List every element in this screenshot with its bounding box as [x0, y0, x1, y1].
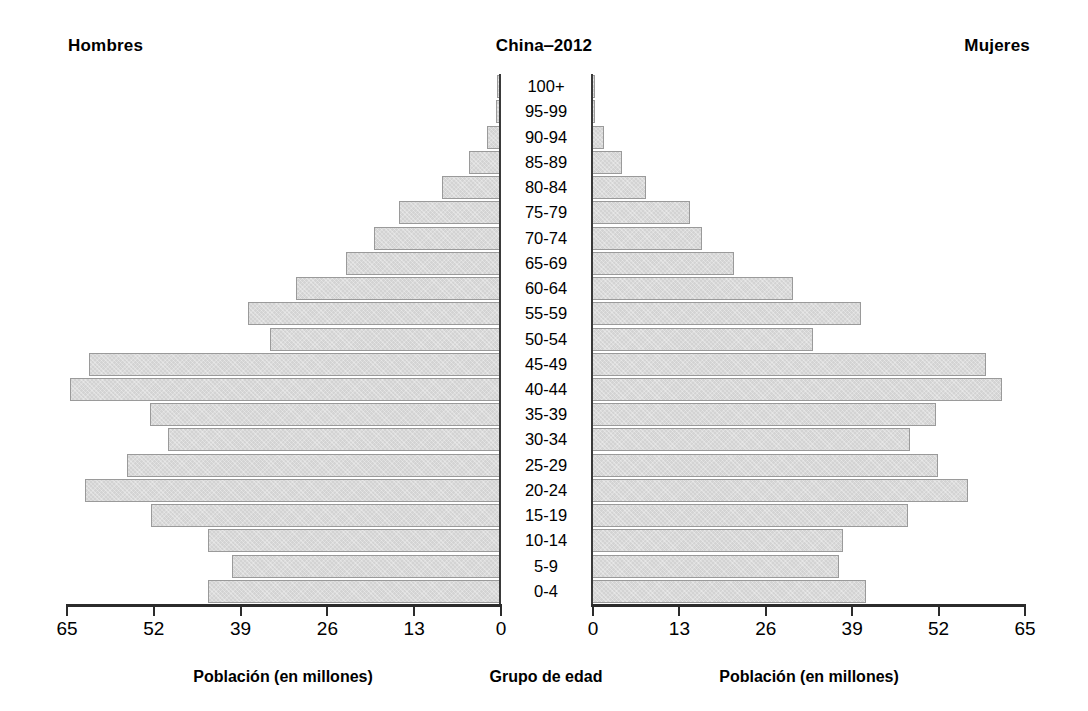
female-bar	[592, 479, 968, 502]
left-axis-tick-label: 65	[56, 618, 77, 640]
age-group-label: 35-39	[503, 403, 589, 426]
left-axis-tick-label: 52	[143, 618, 164, 640]
female-bar-row	[592, 454, 1024, 477]
male-bar-row	[66, 151, 500, 174]
male-bar-row	[66, 479, 500, 502]
male-bar	[168, 428, 500, 451]
male-bar-row	[66, 428, 500, 451]
age-group-label: 0-4	[503, 580, 589, 603]
female-bar-row	[592, 75, 1024, 98]
female-bar	[592, 151, 622, 174]
male-bar	[442, 176, 500, 199]
right-axis-tick	[1024, 604, 1026, 616]
female-bar-row	[592, 555, 1024, 578]
age-group-label: 50-54	[503, 328, 589, 351]
age-group-label: 10-14	[503, 529, 589, 552]
male-bar	[399, 201, 500, 224]
male-bar	[208, 580, 500, 603]
female-side-label: Mujeres	[964, 36, 1030, 56]
left-axis-tick-label: 0	[496, 618, 507, 640]
female-bar-row	[592, 328, 1024, 351]
left-axis-tick	[240, 604, 242, 616]
female-bar	[592, 580, 866, 603]
left-axis-tick	[66, 604, 68, 616]
female-bar	[592, 403, 936, 426]
age-group-label: 45-49	[503, 353, 589, 376]
female-bar-row	[592, 100, 1024, 123]
age-group-label: 40-44	[503, 378, 589, 401]
age-group-label: 5-9	[503, 555, 589, 578]
age-group-label: 100+	[503, 75, 589, 98]
female-bar-row	[592, 428, 1024, 451]
right-x-axis	[591, 604, 1025, 607]
female-bar	[592, 176, 646, 199]
right-axis-tick-label: 65	[1014, 618, 1035, 640]
left-axis-tick	[413, 604, 415, 616]
male-bar-row	[66, 378, 500, 401]
female-bar-row	[592, 378, 1024, 401]
age-group-label: 70-74	[503, 227, 589, 250]
age-group-label: 90-94	[503, 126, 589, 149]
female-bar	[592, 529, 843, 552]
male-bar-row	[66, 126, 500, 149]
female-bar	[592, 227, 702, 250]
female-bar-row	[592, 302, 1024, 325]
right-axis-tick-label: 26	[755, 618, 776, 640]
female-bar	[592, 252, 734, 275]
female-bar	[592, 353, 986, 376]
right-axis-tick	[851, 604, 853, 616]
female-bar	[592, 504, 908, 527]
right-axis-tick	[938, 604, 940, 616]
age-group-label: 80-84	[503, 176, 589, 199]
female-bar-row	[592, 252, 1024, 275]
male-bar	[70, 378, 500, 401]
age-group-column: 100+95-9990-9485-8980-8475-7970-7465-696…	[503, 74, 589, 604]
left-zero-axis	[499, 74, 501, 604]
female-bar-row	[592, 403, 1024, 426]
male-bar	[150, 403, 500, 426]
female-bar-row	[592, 126, 1024, 149]
center-axis-caption: Grupo de edad	[490, 668, 603, 686]
left-axis-tick	[500, 604, 502, 616]
male-bar	[232, 555, 500, 578]
female-bar	[592, 378, 1002, 401]
male-bar-row	[66, 277, 500, 300]
left-axis-tick-label: 13	[404, 618, 425, 640]
male-bar-row	[66, 100, 500, 123]
male-bar-row	[66, 353, 500, 376]
population-pyramid-figure: Hombres China‒2012 Mujeres 100+95-9990-9…	[0, 0, 1088, 711]
left-x-axis	[66, 604, 501, 607]
left-axis-tick	[153, 604, 155, 616]
male-bar-row	[66, 580, 500, 603]
female-bar-row	[592, 151, 1024, 174]
male-bar	[296, 277, 500, 300]
female-bar	[592, 428, 910, 451]
male-bar	[85, 479, 500, 502]
male-bar	[270, 328, 500, 351]
right-axis-tick-label: 0	[588, 618, 599, 640]
male-bar-row	[66, 328, 500, 351]
male-bar-row	[66, 252, 500, 275]
male-bar-row	[66, 403, 500, 426]
left-axis-tick-label: 39	[230, 618, 251, 640]
female-bar	[592, 126, 604, 149]
left-axis-caption: Población (en millones)	[193, 668, 373, 686]
age-group-label: 95-99	[503, 100, 589, 123]
female-bar	[592, 302, 861, 325]
male-bar	[248, 302, 500, 325]
female-bar-row	[592, 201, 1024, 224]
age-group-label: 85-89	[503, 151, 589, 174]
age-group-label: 65-69	[503, 252, 589, 275]
female-bar	[592, 454, 938, 477]
female-bar-row	[592, 176, 1024, 199]
male-bar	[127, 454, 500, 477]
male-bar-row	[66, 201, 500, 224]
male-bar-row	[66, 302, 500, 325]
right-axis-tick	[592, 604, 594, 616]
right-axis-tick-label: 39	[842, 618, 863, 640]
male-bar	[469, 151, 500, 174]
female-bar-row	[592, 504, 1024, 527]
right-axis-tick-label: 13	[669, 618, 690, 640]
male-bar	[89, 353, 500, 376]
male-bar-row	[66, 176, 500, 199]
